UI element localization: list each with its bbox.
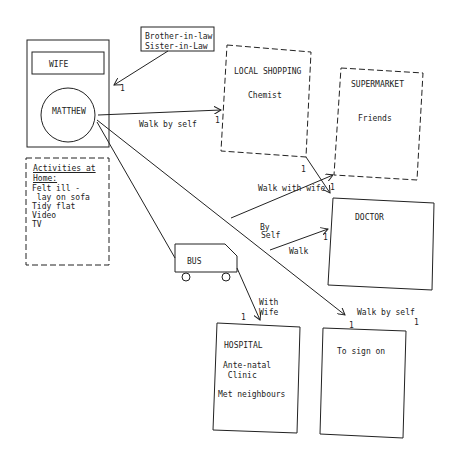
activity-item: lay on sofa (32, 193, 90, 202)
wife-label: WIFE (49, 60, 68, 69)
doctor-title: DOCTOR (355, 213, 384, 222)
inlaws-count: 1 (120, 84, 125, 93)
doctor-box (328, 198, 434, 290)
activity-item: Felt ill - (32, 184, 80, 193)
inlaws-line2: Sister-in-Law (145, 42, 208, 51)
bus-wheel-back (222, 273, 230, 281)
walk-label: Walk (289, 247, 308, 256)
hospital-item-1: Ante-natal (223, 361, 271, 370)
home-box (27, 40, 109, 147)
bus-label: BUS (187, 257, 201, 266)
supermarket-title: SUPERMARKET (351, 80, 404, 89)
activity-item: Tidy flat (32, 202, 75, 211)
walk-with-wife-label: Walk with wife (258, 184, 325, 193)
local-shopping-box (221, 45, 311, 157)
activity-item: Video (32, 211, 56, 220)
local-shopping-title: LOCAL SHOPPING (234, 67, 301, 76)
walk-count: 1 (323, 233, 328, 242)
walk-by-self-2-count-a: 1 (349, 321, 354, 330)
walk-by-self-count: 1 (215, 116, 220, 125)
bus-wheel-front (182, 273, 190, 281)
inlaws-line1: Brother-in-law (145, 32, 212, 41)
hospital-item-2: Clinic (223, 371, 257, 380)
walk-by-self-label: Walk by self (139, 120, 197, 129)
hospital-item-3: Met neighbours (218, 390, 285, 399)
activities-heading-2: Home: (33, 174, 57, 183)
sign-on-title: To sign on (337, 347, 385, 356)
activity-item: TV (32, 220, 42, 229)
bus-body (175, 244, 237, 272)
matthew-label: MATTHEW (52, 107, 86, 116)
walk-by-self-2-label: Walk by self (357, 308, 415, 317)
with-wife-label-2: Wife (259, 308, 278, 317)
activities-heading-1: Activities at (33, 164, 96, 173)
walk-by-self-2-count-b: 1 (414, 318, 419, 327)
with-wife-label-1: With (259, 298, 278, 307)
shop-to-super-count: 1 (301, 165, 306, 174)
supermarket-item: Friends (358, 114, 392, 123)
hospital-title: HOSPITAL (224, 341, 263, 350)
sign-on-box (320, 328, 406, 438)
walk-with-wife-count: 1 (330, 183, 335, 192)
with-wife-count: 1 (241, 313, 246, 322)
local-shopping-item: Chemist (248, 91, 282, 100)
by-self-label-2: Self (261, 231, 280, 240)
diagram-canvas: WIFE MATTHEW Brother-in-law Sister-in-La… (0, 0, 450, 465)
